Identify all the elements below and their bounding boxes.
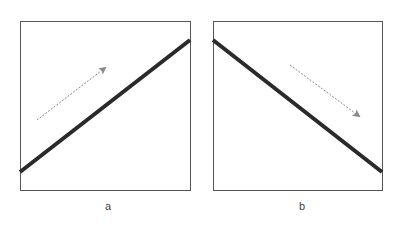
panel-a-label: a [98, 200, 118, 212]
decreasing-line [213, 40, 382, 172]
panel-b [213, 22, 383, 191]
panel-b-label: b [292, 200, 312, 212]
increasing-line [20, 40, 190, 172]
panel-a [20, 22, 191, 191]
diagram-canvas [0, 0, 399, 225]
